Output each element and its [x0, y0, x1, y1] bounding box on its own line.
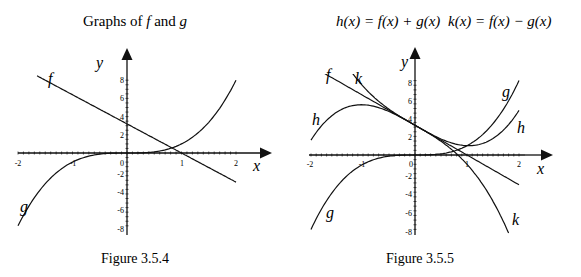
svg-text:-4: -4	[117, 188, 124, 197]
x-axis-arrow-icon	[541, 150, 553, 161]
x-axis-arrow-icon	[260, 148, 272, 159]
svg-text:6: 6	[120, 94, 124, 103]
label-h: h	[312, 111, 320, 128]
label-k: k	[355, 70, 363, 87]
y-axis-arrow-icon	[410, 47, 421, 59]
chart-right: h(x) = f(x) + g(x) k(x) = f(x) − g(x) -2…	[307, 13, 553, 266]
y-tick-labels: 8 6 4 2 -2 -4 -6 -8	[117, 76, 124, 234]
svg-text:2: 2	[234, 159, 238, 168]
svg-text:8: 8	[408, 79, 412, 88]
svg-text:-8: -8	[405, 228, 412, 237]
svg-text:2: 2	[517, 160, 521, 169]
svg-text:-4: -4	[405, 190, 412, 199]
figure-canvas: Graphs of f and g -2 -1 0 1 2 8 6 4 2 -2…	[0, 0, 581, 277]
label-g: g	[326, 204, 334, 222]
svg-text:1: 1	[180, 159, 184, 168]
svg-text:8: 8	[120, 76, 124, 85]
svg-text:0: 0	[409, 160, 413, 169]
caption-left: Figure 3.5.4	[101, 251, 169, 266]
y-tick-labels: 8 6 4 2 -2 -4 -6 -8	[405, 79, 412, 237]
label-h: h	[517, 119, 525, 136]
series-f-line	[37, 76, 236, 182]
svg-text:6: 6	[408, 97, 412, 106]
svg-text:2: 2	[408, 133, 412, 142]
chart-right-title-k: k(x) = f(x) − g(x)	[448, 13, 552, 30]
svg-text:-6: -6	[117, 206, 124, 215]
label-f: f	[326, 66, 333, 84]
svg-text:2: 2	[120, 131, 124, 140]
label-y: y	[399, 53, 409, 71]
svg-text:-2: -2	[307, 160, 314, 169]
label-x: x	[536, 160, 544, 177]
label-g: g	[20, 198, 28, 216]
svg-text:-6: -6	[405, 209, 412, 218]
svg-text:0: 0	[120, 159, 124, 168]
chart-right-title-h: h(x) = f(x) + g(x)	[336, 13, 440, 30]
caption-right: Figure 3.5.5	[386, 251, 454, 266]
label-k: k	[512, 211, 520, 228]
svg-text:-2: -2	[15, 159, 22, 168]
y-axis-arrow-icon	[122, 48, 133, 60]
series-k-line	[343, 60, 508, 233]
svg-text:-2: -2	[117, 170, 124, 179]
label-x: x	[252, 157, 260, 174]
label-y: y	[94, 54, 104, 72]
label-g: g	[502, 83, 510, 101]
chart-left: Graphs of f and g -2 -1 0 1 2 8 6 4 2 -2…	[15, 13, 272, 266]
chart-left-title: Graphs of f and g	[83, 13, 188, 29]
svg-text:-2: -2	[405, 172, 412, 181]
svg-text:-8: -8	[117, 225, 124, 234]
